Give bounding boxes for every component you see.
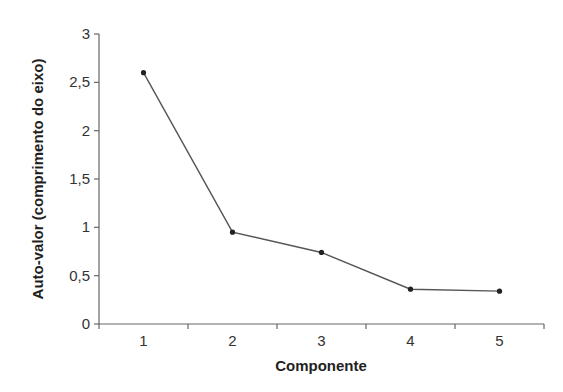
data-point-marker: [497, 289, 502, 294]
x-tick-label: 2: [228, 332, 236, 349]
x-tick-label: 5: [495, 332, 503, 349]
y-tick-label: 3: [82, 25, 90, 42]
x-axis-title: Componente: [275, 357, 367, 374]
y-tick-label: 2: [82, 122, 90, 139]
y-tick-label: 2,5: [69, 73, 90, 90]
y-axis-title: Auto-valor (comprimento do eixo): [29, 59, 46, 300]
x-axis: 12345: [99, 324, 544, 349]
data-point-marker: [141, 70, 146, 75]
y-tick-label: 1,5: [69, 170, 90, 187]
data-point-marker: [319, 250, 324, 255]
series-line: [144, 73, 500, 291]
scree-plot: 00,511,522,53 12345 Componente Auto-valo…: [0, 0, 563, 392]
data-series: [141, 70, 502, 294]
y-axis: 00,511,522,53: [69, 25, 99, 332]
x-tick-label: 3: [317, 332, 325, 349]
x-tick-label: 1: [139, 332, 147, 349]
x-tick-label: 4: [406, 332, 414, 349]
y-tick-label: 1: [82, 218, 90, 235]
y-tick-label: 0: [82, 315, 90, 332]
data-point-marker: [230, 230, 235, 235]
y-tick-label: 0,5: [69, 267, 90, 284]
data-point-marker: [408, 287, 413, 292]
